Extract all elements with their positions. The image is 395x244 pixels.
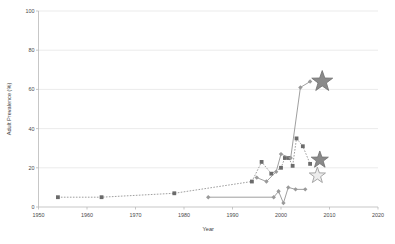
y-tick-label-60: 60 <box>29 86 35 92</box>
data-point-modern-solid-series-3[interactable] <box>281 201 285 205</box>
data-point-historic-dashed-series-0[interactable] <box>56 195 60 199</box>
data-point-modern-solid-series-0[interactable] <box>206 195 210 199</box>
y-tick-label-20: 20 <box>29 165 35 171</box>
star-marker-middle[interactable] <box>311 151 328 167</box>
x-tick-label-1970: 1970 <box>130 212 142 218</box>
data-point-historic-dashed-series-11[interactable] <box>301 144 305 148</box>
y-tick-label-40: 40 <box>29 126 35 132</box>
chart-container: 0204060801001950196019701980199020002010… <box>0 0 395 244</box>
y-axis-title: Adult Prevalence (%) <box>6 83 12 136</box>
y-tick-label-100: 100 <box>26 8 35 14</box>
x-tick-label-1960: 1960 <box>81 212 93 218</box>
data-point-modern-solid-series-5[interactable] <box>293 187 297 191</box>
x-axis-title: Year <box>203 226 214 232</box>
data-point-historic-dashed-series-9[interactable] <box>291 164 295 168</box>
star-marker-lower[interactable] <box>309 167 325 182</box>
x-tick-label-2010: 2010 <box>324 212 336 218</box>
y-tick-label-0: 0 <box>32 204 35 210</box>
data-point-historic-dashed-series-3[interactable] <box>250 180 254 184</box>
data-point-historic-dashed-series-2[interactable] <box>172 191 176 195</box>
data-point-historic-dashed-series-10[interactable] <box>295 137 299 141</box>
data-point-modern-solid-series-6[interactable] <box>303 187 307 191</box>
x-tick-label-2020: 2020 <box>372 212 384 218</box>
data-point-historic-dashed-series-6[interactable] <box>279 166 283 170</box>
prevalence-line-chart: 0204060801001950196019701980199020002010… <box>0 0 395 244</box>
data-point-rising-solid-series-3[interactable] <box>279 152 283 156</box>
data-point-rising-solid-series-0[interactable] <box>255 175 259 179</box>
data-point-rising-solid-series-5[interactable] <box>298 85 302 89</box>
star-marker-upper[interactable] <box>312 71 333 91</box>
series-line-modern-solid-series <box>208 187 305 203</box>
data-point-historic-dashed-series-1[interactable] <box>100 195 104 199</box>
x-tick-label-1980: 1980 <box>178 212 190 218</box>
data-point-historic-dashed-series-4[interactable] <box>260 160 264 164</box>
series-line-rising-solid-series <box>257 82 310 182</box>
data-point-rising-solid-series-6[interactable] <box>308 79 312 83</box>
x-tick-label-1950: 1950 <box>33 212 45 218</box>
data-point-historic-dashed-series-12[interactable] <box>308 162 312 166</box>
y-tick-label-80: 80 <box>29 47 35 53</box>
data-point-historic-dashed-series-7[interactable] <box>283 156 287 160</box>
x-tick-label-2000: 2000 <box>275 212 287 218</box>
x-tick-label-1990: 1990 <box>227 212 239 218</box>
data-point-modern-solid-series-4[interactable] <box>286 185 290 189</box>
